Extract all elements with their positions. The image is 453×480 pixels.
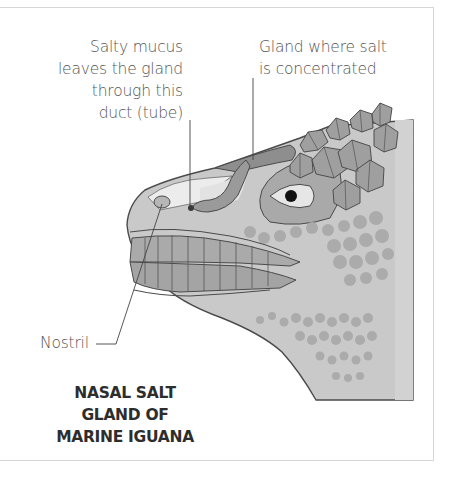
title-line: MARINE IGUANA [40,426,210,448]
duct-label-line: through this [58,80,183,102]
title-line: NASAL SALT [40,382,210,404]
gland-label-line: Gland where salt [259,36,387,58]
duct-label-line: Salty mucus [58,36,183,58]
gland-label: Gland where salt is concentrated [259,36,387,80]
title-line: GLAND OF [40,404,210,426]
diagram-title: NASAL SALT GLAND OF MARINE IGUANA [40,382,210,448]
nostril-label: Nostril [40,332,89,354]
eye-pupil [285,190,297,202]
duct-label: Salty mucus leaves the gland through thi… [58,36,183,124]
duct-label-line: duct (tube) [58,102,183,124]
duct-label-line: leaves the gland [58,58,183,80]
nostril [154,196,170,208]
gland-label-line: is concentrated [259,58,387,80]
